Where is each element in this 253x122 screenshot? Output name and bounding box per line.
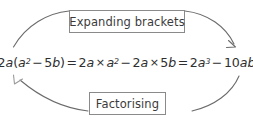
eq-token: a	[140, 55, 148, 70]
expanding-arrow-path-right	[185, 11, 234, 44]
eq-token: a	[86, 55, 94, 70]
eq-token: a	[6, 55, 14, 70]
algebra-equation: 2a(a2−5b)=2a×a2−2a×5b=2a3−10ab	[0, 50, 253, 74]
expanding-brackets-box: Expanding brackets	[69, 10, 185, 33]
expanding-brackets-label: Expanding brackets	[69, 15, 184, 29]
eq-minus: −	[210, 55, 224, 70]
factorising-arrow-path-left	[20, 80, 88, 111]
eq-token: 5	[160, 55, 168, 70]
eq-equals: =	[65, 55, 79, 70]
eq-token: 5	[44, 55, 52, 70]
eq-minus: −	[31, 55, 45, 70]
factorising-arrow-head	[14, 75, 23, 84]
eq-minus: −	[119, 55, 133, 70]
eq-token: 2	[190, 55, 198, 70]
factorising-label: Factorising	[96, 97, 159, 111]
eq-token: ab	[240, 55, 253, 70]
eq-times: ×	[94, 56, 106, 69]
eq-token: 10	[224, 55, 240, 70]
eq-token: b	[52, 55, 60, 70]
eq-token: 2	[79, 55, 87, 70]
factorising-box: Factorising	[89, 92, 166, 115]
eq-token: a	[198, 55, 206, 70]
eq-token: b	[168, 55, 176, 70]
expanding-arrow-path	[14, 11, 70, 47]
algebra-cycle-diagram: Expanding brackets 2a(a2−5b)=2a×a2−2a×5b…	[0, 0, 253, 122]
eq-token: 2	[132, 55, 140, 70]
eq-token: a	[106, 55, 114, 70]
eq-token: a	[18, 55, 26, 70]
eq-times: ×	[148, 56, 160, 69]
eq-equals: =	[176, 55, 190, 70]
factorising-arrow-path-right	[192, 76, 239, 111]
